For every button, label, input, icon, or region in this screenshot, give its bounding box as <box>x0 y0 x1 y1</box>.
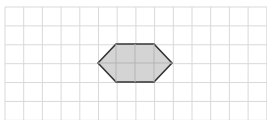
hexagon-inner-grid-lines <box>98 44 172 82</box>
grid-diagram <box>0 0 267 120</box>
